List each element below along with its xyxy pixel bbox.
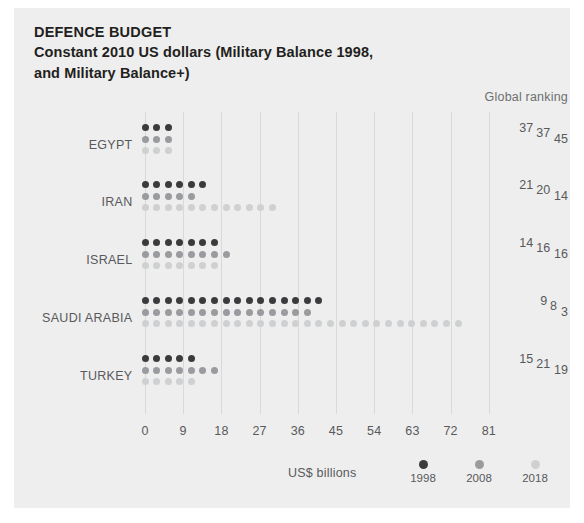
- data-dot: [281, 309, 288, 316]
- data-dot: [165, 378, 172, 385]
- ranking-value-1998: 14: [519, 236, 533, 250]
- data-dot: [257, 320, 264, 327]
- data-dot: [199, 239, 206, 246]
- data-dot: [153, 239, 160, 246]
- dot-series-2008: [142, 193, 200, 202]
- data-dot: [153, 251, 160, 258]
- legend: 199820082018: [400, 460, 565, 500]
- data-dot: [153, 136, 160, 143]
- dot-series-2018: [142, 147, 177, 156]
- data-dot: [176, 355, 183, 362]
- legend-item-2018[interactable]: 2018: [512, 460, 558, 484]
- data-dot: [165, 124, 172, 131]
- data-dot: [153, 193, 160, 200]
- data-dot: [223, 204, 230, 211]
- data-dot: [165, 181, 172, 188]
- data-dot: [269, 320, 276, 327]
- data-dot: [142, 251, 149, 258]
- legend-swatch-2008: [475, 460, 484, 469]
- x-tick-label-72: 72: [443, 424, 457, 438]
- data-dot: [246, 297, 253, 304]
- data-dot: [142, 355, 149, 362]
- data-dot: [153, 320, 160, 327]
- x-tick-label-45: 45: [329, 424, 343, 438]
- data-dot: [142, 320, 149, 327]
- category-label-iran: IRAN: [101, 195, 132, 209]
- data-dot: [211, 297, 218, 304]
- data-dot: [397, 320, 404, 327]
- data-dot: [234, 204, 241, 211]
- data-dot: [199, 320, 206, 327]
- data-dot: [142, 297, 149, 304]
- data-dot: [165, 147, 172, 154]
- data-dot: [142, 378, 149, 385]
- data-dot: [176, 239, 183, 246]
- x-tick-label-81: 81: [482, 424, 496, 438]
- data-dot: [199, 367, 206, 374]
- legend-swatch-1998: [419, 460, 428, 469]
- legend-item-2008[interactable]: 2008: [456, 460, 502, 484]
- data-dot: [246, 309, 253, 316]
- data-dot: [176, 297, 183, 304]
- data-dot: [142, 181, 149, 188]
- data-dot: [257, 297, 264, 304]
- data-dot: [211, 204, 218, 211]
- data-dot: [223, 297, 230, 304]
- data-dot: [292, 309, 299, 316]
- data-dot: [142, 239, 149, 246]
- data-dot: [199, 251, 206, 258]
- ranking-group-saudi-arabia: 983: [540, 298, 568, 316]
- data-dot: [188, 309, 195, 316]
- data-dot: [188, 320, 195, 327]
- data-dot: [420, 320, 427, 327]
- legend-swatch-2018: [531, 460, 540, 469]
- data-dot: [199, 309, 206, 316]
- legend-label-2008: 2008: [456, 472, 502, 484]
- data-dot: [142, 147, 149, 154]
- category-label-egypt: EGYPT: [89, 138, 133, 152]
- data-dot: [223, 309, 230, 316]
- data-dot: [153, 181, 160, 188]
- data-dot: [246, 320, 253, 327]
- category-row: SAUDI ARABIA: [142, 297, 581, 349]
- data-dot: [153, 262, 160, 269]
- data-dot: [281, 297, 288, 304]
- category-label-turkey: TURKEY: [80, 369, 133, 383]
- ranking-value-1998: 15: [519, 352, 533, 366]
- data-dot: [373, 320, 380, 327]
- x-tick-label-54: 54: [367, 424, 381, 438]
- data-dot: [188, 262, 195, 269]
- data-dot: [188, 251, 195, 258]
- dot-series-2018: [142, 262, 223, 271]
- data-dot: [269, 309, 276, 316]
- data-dot: [269, 204, 276, 211]
- data-dot: [443, 320, 450, 327]
- data-dot: [165, 262, 172, 269]
- data-dot: [142, 309, 149, 316]
- data-dot: [234, 320, 241, 327]
- data-dot: [165, 355, 172, 362]
- data-dot: [211, 262, 218, 269]
- data-dot: [455, 320, 462, 327]
- legend-item-1998[interactable]: 1998: [400, 460, 446, 484]
- data-dot: [292, 320, 299, 327]
- data-dot: [165, 204, 172, 211]
- ranking-group-egypt: 373745: [519, 125, 568, 143]
- data-dot: [339, 320, 346, 327]
- ranking-value-2008: 21: [536, 357, 550, 371]
- x-tick-label-9: 9: [180, 424, 187, 438]
- x-axis: 091827364554637281: [0, 424, 584, 444]
- data-dot: [211, 239, 218, 246]
- chart-figure: DEFENCE BUDGET Constant 2010 US dollars …: [0, 0, 584, 523]
- ranking-value-2008: 16: [536, 241, 550, 255]
- data-dot: [234, 309, 241, 316]
- axis-title: US$ billions: [288, 466, 356, 480]
- data-dot: [165, 320, 172, 327]
- data-dot: [165, 309, 172, 316]
- data-dot: [315, 320, 322, 327]
- data-dot: [176, 204, 183, 211]
- data-dot: [153, 204, 160, 211]
- data-dot: [211, 367, 218, 374]
- data-dot: [281, 320, 288, 327]
- data-dot: [315, 297, 322, 304]
